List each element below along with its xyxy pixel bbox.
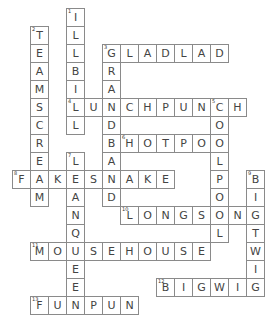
grid-cell[interactable]: L [66, 26, 85, 45]
grid-cell[interactable]: O [48, 242, 67, 261]
grid-cell[interactable]: A [30, 62, 49, 81]
grid-cell[interactable]: E [30, 152, 49, 171]
grid-cell[interactable]: I [66, 80, 85, 99]
grid-cell[interactable]: S [192, 206, 211, 225]
grid-cell[interactable]: A [192, 44, 211, 63]
grid-cell[interactable]: M [30, 188, 49, 207]
grid-cell[interactable]: E [66, 170, 85, 189]
grid-cell[interactable]: S [84, 170, 103, 189]
grid-cell[interactable]: E [192, 242, 211, 261]
grid-cell[interactable]: 5C [210, 98, 229, 117]
grid-cell[interactable]: O [210, 188, 229, 207]
grid-cell[interactable]: 8F [12, 170, 31, 189]
grid-cell[interactable]: S [174, 242, 193, 261]
grid-cell[interactable]: O [210, 206, 229, 225]
grid-cell[interactable]: E [30, 44, 49, 63]
grid-cell[interactable]: I [246, 260, 265, 279]
grid-cell[interactable]: L [66, 116, 85, 135]
grid-cell[interactable]: E [66, 260, 85, 279]
grid-cell[interactable]: 11M [30, 242, 49, 261]
grid-cell[interactable]: H [138, 98, 157, 117]
grid-cell[interactable]: O [210, 134, 229, 153]
grid-cell[interactable]: 12B [156, 278, 175, 297]
grid-cell[interactable]: B [66, 62, 85, 81]
grid-cell[interactable]: C [120, 98, 139, 117]
grid-cell[interactable]: U [84, 98, 103, 117]
grid-cell[interactable]: P [210, 170, 229, 189]
grid-cell[interactable]: U [156, 242, 175, 261]
grid-cell[interactable]: O [138, 206, 157, 225]
grid-cell[interactable]: N [156, 206, 175, 225]
grid-cell[interactable]: P [156, 98, 175, 117]
grid-cell[interactable]: I [174, 278, 193, 297]
grid-cell[interactable]: H [228, 98, 247, 117]
grid-cell[interactable]: 9B [246, 170, 265, 189]
grid-cell[interactable]: N [102, 170, 121, 189]
grid-cell[interactable]: S [84, 242, 103, 261]
grid-cell[interactable]: N [192, 98, 211, 117]
grid-cell[interactable]: O [138, 242, 157, 261]
grid-cell[interactable]: O [138, 134, 157, 153]
grid-cell[interactable]: 13F [30, 296, 49, 315]
grid-cell[interactable]: R [102, 62, 121, 81]
grid-cell[interactable]: A [30, 170, 49, 189]
grid-cell[interactable]: U [48, 296, 67, 315]
grid-cell[interactable]: K [48, 170, 67, 189]
grid-cell[interactable]: 6H [120, 134, 139, 153]
grid-cell[interactable]: A [120, 170, 139, 189]
grid-cell[interactable]: N [228, 206, 247, 225]
grid-cell[interactable]: 7L [66, 152, 85, 171]
grid-cell[interactable]: 2T [30, 26, 49, 45]
grid-cell[interactable]: G [246, 206, 265, 225]
grid-cell[interactable]: N [66, 206, 85, 225]
grid-cell[interactable]: W [210, 278, 229, 297]
grid-cell[interactable]: 4L [66, 98, 85, 117]
grid-cell[interactable]: N [102, 98, 121, 117]
grid-cell[interactable]: S [30, 98, 49, 117]
grid-cell[interactable]: E [156, 170, 175, 189]
grid-cell[interactable]: K [138, 170, 157, 189]
grid-cell[interactable]: U [66, 242, 85, 261]
grid-cell[interactable]: M [30, 80, 49, 99]
grid-cell[interactable]: A [138, 44, 157, 63]
grid-cell[interactable]: T [246, 224, 265, 243]
grid-cell[interactable]: W [246, 242, 265, 261]
grid-cell[interactable]: 1I [66, 8, 85, 27]
grid-cell[interactable]: B [102, 134, 121, 153]
grid-cell[interactable]: G [192, 278, 211, 297]
grid-cell[interactable]: N [120, 296, 139, 315]
grid-cell[interactable]: D [102, 188, 121, 207]
grid-cell[interactable]: H [120, 242, 139, 261]
grid-cell[interactable]: L [210, 224, 229, 243]
grid-cell[interactable]: I [228, 278, 247, 297]
grid-cell[interactable]: L [210, 152, 229, 171]
grid-cell[interactable]: G [246, 278, 265, 297]
grid-cell[interactable]: G [174, 206, 193, 225]
grid-cell[interactable]: U [102, 296, 121, 315]
grid-cell[interactable]: T [156, 134, 175, 153]
grid-cell[interactable]: A [102, 152, 121, 171]
grid-cell[interactable]: D [210, 44, 229, 63]
grid-cell[interactable]: D [156, 44, 175, 63]
grid-cell[interactable]: P [174, 134, 193, 153]
grid-cell[interactable]: 3G [102, 44, 121, 63]
grid-cell[interactable]: R [30, 134, 49, 153]
grid-cell[interactable]: E [66, 278, 85, 297]
cell-letter: S [85, 246, 102, 258]
grid-cell[interactable]: C [30, 116, 49, 135]
grid-cell[interactable]: N [66, 296, 85, 315]
grid-cell[interactable]: A [66, 188, 85, 207]
grid-cell[interactable]: E [102, 242, 121, 261]
grid-cell[interactable]: Q [66, 224, 85, 243]
grid-cell[interactable]: L [174, 44, 193, 63]
grid-cell[interactable]: O [210, 116, 229, 135]
grid-cell[interactable]: I [246, 188, 265, 207]
grid-cell[interactable]: L [66, 44, 85, 63]
grid-cell[interactable]: P [84, 296, 103, 315]
grid-cell[interactable]: D [102, 116, 121, 135]
grid-cell[interactable]: O [192, 134, 211, 153]
grid-cell[interactable]: 10L [120, 206, 139, 225]
grid-cell[interactable]: U [174, 98, 193, 117]
grid-cell[interactable]: L [120, 44, 139, 63]
grid-cell[interactable]: A [102, 80, 121, 99]
